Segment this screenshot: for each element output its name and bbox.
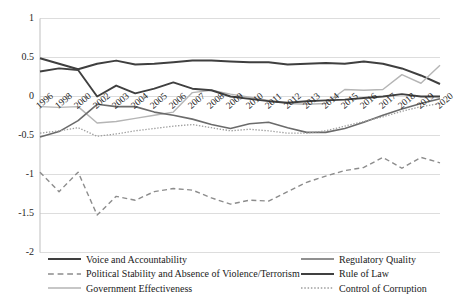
y-axis-tick-label: -0.5 bbox=[0, 129, 34, 140]
legend-column-right: Regulatory QualityRule of LawControl of … bbox=[300, 252, 427, 296]
legend-item-label: Control of Corruption bbox=[339, 283, 427, 294]
legend-line-swatch-icon bbox=[47, 269, 82, 279]
legend-item[interactable]: Regulatory Quality bbox=[300, 252, 427, 267]
legend-line-swatch-icon bbox=[47, 283, 82, 293]
legend-item[interactable]: Government Effectiveness bbox=[47, 281, 300, 296]
y-axis-tick-label: 1 bbox=[0, 12, 34, 23]
series-line-political-stability-and-absence-of-violence-terrorism bbox=[40, 157, 440, 215]
legend-line-swatch-icon bbox=[300, 269, 335, 279]
legend-item[interactable]: Control of Corruption bbox=[300, 281, 427, 296]
data-series-group bbox=[40, 58, 440, 215]
legend-item[interactable]: Rule of Law bbox=[300, 267, 427, 282]
legend-line-swatch-icon bbox=[300, 283, 335, 293]
legend-column-left: Voice and AccountabilityPolitical Stabil… bbox=[47, 252, 300, 296]
legend-line-swatch-icon bbox=[47, 254, 82, 264]
legend-item[interactable]: Political Stability and Absence of Viole… bbox=[47, 267, 300, 282]
legend-item-label: Political Stability and Absence of Viole… bbox=[86, 268, 300, 279]
y-axis-tick-label: 0.5 bbox=[0, 51, 34, 62]
legend-item[interactable]: Voice and Accountability bbox=[47, 252, 300, 267]
chart-legend: Voice and AccountabilityPolitical Stabil… bbox=[0, 252, 447, 302]
y-axis-tick-label: -1 bbox=[0, 168, 34, 179]
legend-item-label: Government Effectiveness bbox=[86, 283, 192, 294]
legend-line-swatch-icon bbox=[300, 254, 335, 264]
y-axis-tick-label: 0 bbox=[0, 90, 34, 101]
y-axis-tick-label: -1.5 bbox=[0, 207, 34, 218]
legend-item-label: Regulatory Quality bbox=[339, 254, 416, 265]
series-line-voice-and-accountability bbox=[40, 58, 440, 84]
gridlines bbox=[40, 19, 440, 253]
legend-item-label: Voice and Accountability bbox=[86, 254, 187, 265]
legend-item-label: Rule of Law bbox=[339, 268, 389, 279]
